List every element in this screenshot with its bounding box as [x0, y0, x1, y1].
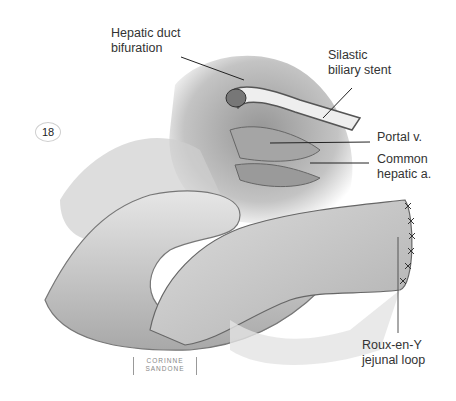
label-common-hepatic-artery: Common hepatic a.	[377, 152, 431, 182]
artist-signature: CORINNE SANDONE	[133, 357, 197, 375]
surgical-illustration: 18 Hepatic duct bifuration Silastic bili…	[0, 0, 456, 401]
label-hepatic-duct-bifuration: Hepatic duct bifuration	[111, 26, 180, 56]
label-roux-en-y-jejunal-loop: Roux-en-Y jejunal loop	[362, 338, 425, 368]
label-silastic-biliary-stent: Silastic biliary stent	[328, 48, 391, 78]
figure-number: 18	[35, 122, 61, 142]
label-portal-vein: Portal v.	[377, 130, 422, 145]
